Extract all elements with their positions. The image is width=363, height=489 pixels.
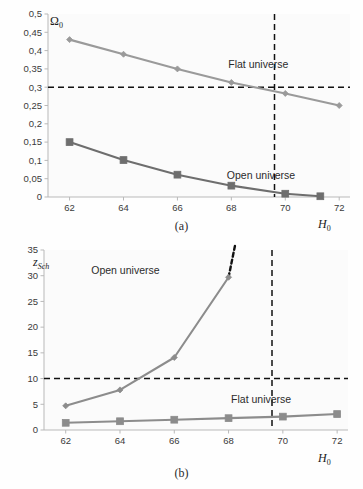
chart-panel-a: 00,050,10,150,20,250,30,350,40,450,56264… (0, 0, 363, 235)
y-tick-label: 0,1 (29, 155, 42, 166)
y-tick-label: 30 (27, 270, 38, 281)
y-tick-label: 0 (37, 191, 42, 202)
y-tick-label: 20 (27, 321, 38, 332)
y-tick-label: 0,35 (24, 63, 43, 74)
annotation-label: Open universe (227, 169, 295, 181)
chart-panel-b: 05101520253035626466687072Open universeF… (0, 240, 363, 489)
x-axis-title: H0 (317, 451, 331, 467)
y-tick-label: 10 (27, 373, 38, 384)
caption-b: (b) (0, 466, 363, 481)
x-tick-label: 70 (280, 202, 291, 213)
data-point-marker (228, 182, 235, 189)
figure-container: 00,050,10,150,20,250,30,350,40,450,56264… (0, 0, 363, 489)
x-tick-label: 64 (115, 435, 126, 446)
data-point-marker (317, 193, 324, 200)
y-tick-label: 0,45 (24, 27, 43, 38)
y-tick-label: 0,2 (29, 118, 42, 129)
chart-b-svg: 05101520253035626466687072Open universeF… (0, 240, 363, 480)
annotation-label: Flat universe (228, 58, 288, 70)
x-tick-label: 66 (172, 202, 183, 213)
x-tick-label: 66 (169, 435, 180, 446)
x-tick-label: 70 (278, 435, 289, 446)
data-point-marker (171, 416, 178, 423)
data-point-marker (174, 171, 181, 178)
x-tick-label: 72 (334, 202, 345, 213)
y-tick-label: 0 (33, 424, 38, 435)
annotation-label: Open universe (91, 264, 159, 276)
y-tick-label: 0,3 (29, 82, 42, 93)
x-tick-label: 72 (332, 435, 343, 446)
data-point-marker (120, 157, 127, 164)
data-point-marker (225, 415, 232, 422)
x-tick-label: 68 (223, 435, 234, 446)
data-point-marker (282, 190, 289, 197)
x-tick-label: 62 (60, 435, 71, 446)
y-tick-label: 25 (27, 296, 38, 307)
data-point-marker (117, 418, 124, 425)
x-tick-label: 64 (118, 202, 129, 213)
y-tick-label: 35 (27, 244, 38, 255)
y-tick-label: 0,5 (29, 8, 42, 19)
x-tick-label: 68 (226, 202, 237, 213)
y-tick-label: 15 (27, 347, 38, 358)
y-tick-label: 5 (33, 399, 38, 410)
y-tick-label: 0,4 (29, 45, 42, 56)
chart-a-svg: 00,050,10,150,20,250,30,350,40,450,56264… (0, 0, 363, 235)
data-point-marker (66, 139, 73, 146)
y-tick-label: 0,25 (24, 100, 43, 111)
data-point-marker (62, 419, 69, 426)
y-tick-label: 0,05 (24, 173, 43, 184)
data-point-marker (279, 413, 286, 420)
caption-a: (a) (0, 219, 363, 234)
x-tick-label: 62 (64, 202, 75, 213)
data-point-marker (334, 411, 341, 418)
y-tick-label: 0,15 (24, 136, 43, 147)
annotation-label: Flat universe (231, 393, 291, 405)
